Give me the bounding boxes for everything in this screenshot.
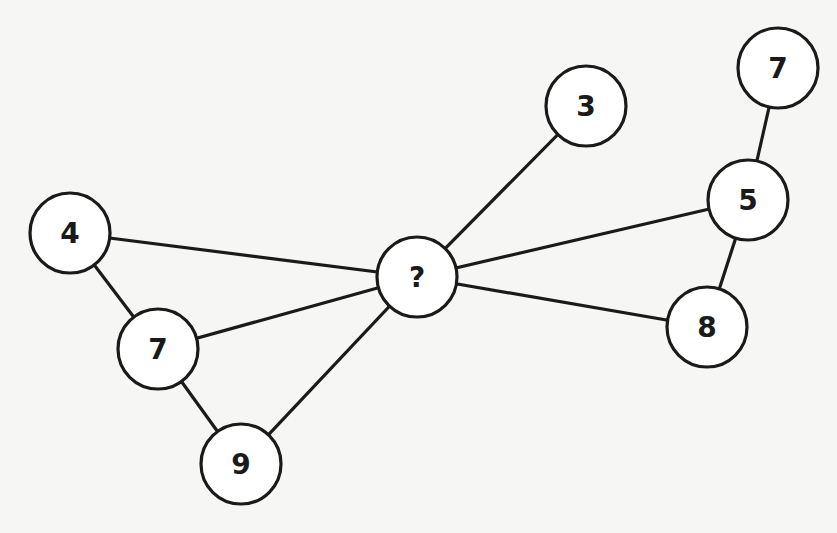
node-label: 5 bbox=[738, 184, 757, 217]
node-n7left: 7 bbox=[118, 309, 198, 389]
node-label: 7 bbox=[768, 52, 787, 85]
node-n9: 9 bbox=[201, 424, 281, 504]
node-n8: 8 bbox=[667, 287, 747, 367]
node-label: 9 bbox=[231, 448, 250, 481]
nodes: ?3758479 bbox=[30, 28, 818, 504]
node-n3: 3 bbox=[546, 66, 626, 146]
node-n7top: 7 bbox=[738, 28, 818, 108]
node-label: 8 bbox=[697, 311, 716, 344]
node-n5: 5 bbox=[708, 160, 788, 240]
edge-center-n5 bbox=[417, 200, 748, 277]
node-label: 4 bbox=[60, 217, 79, 250]
puzzle-graph: ?3758479 bbox=[0, 0, 837, 533]
node-label: ? bbox=[409, 261, 425, 294]
node-n4: 4 bbox=[30, 193, 110, 273]
edge-center-n4 bbox=[70, 233, 417, 277]
node-label: 7 bbox=[148, 333, 167, 366]
node-center: ? bbox=[377, 237, 457, 317]
edge-center-n8 bbox=[417, 277, 707, 327]
node-label: 3 bbox=[576, 90, 595, 123]
